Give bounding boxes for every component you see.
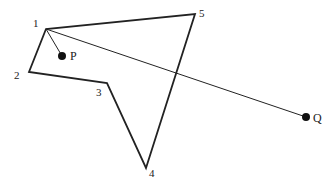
vertex-4-label: 4 [149,167,155,179]
polygon-diagram: PQ 12345 [0,0,335,185]
point-p-label: P [70,49,77,63]
vertex-3-label: 3 [96,86,102,98]
point-p-dot [58,52,66,60]
segment-vertex1-to-P [46,29,62,56]
polygon-outline [29,14,195,168]
vertex-5-label: 5 [199,7,205,19]
vertex-labels: 12345 [14,7,205,179]
point-q-dot [302,113,310,121]
segment-vertex1-to-Q [46,29,306,117]
vertex-1-label: 1 [33,17,39,29]
point-q-label: Q [313,111,322,125]
vertex-2-label: 2 [14,69,20,81]
connector-lines [46,29,306,117]
